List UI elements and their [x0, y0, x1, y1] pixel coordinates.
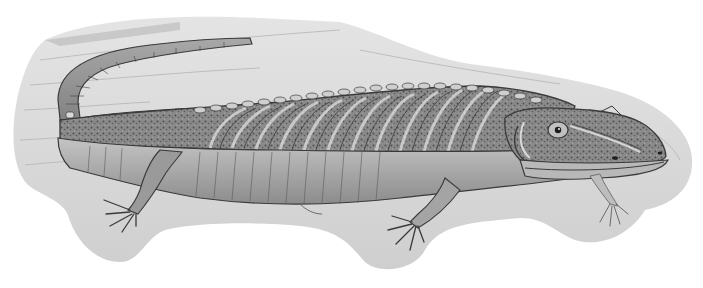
illustration	[0, 0, 703, 288]
eye	[548, 122, 568, 138]
